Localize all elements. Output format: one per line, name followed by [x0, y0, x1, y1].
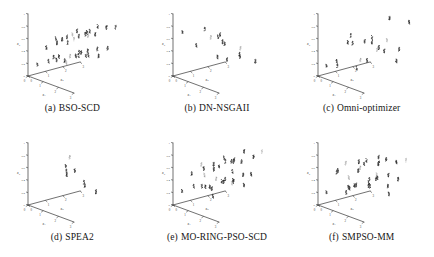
subplot-caption-d: (d)SPEA2	[51, 232, 94, 242]
svg-text:0.2: 0.2	[311, 190, 315, 194]
subplot-title-d: SPEA2	[65, 232, 94, 242]
svg-text:0: 0	[175, 207, 177, 211]
svg-text:1: 1	[39, 84, 41, 88]
svg-text:2: 2	[210, 69, 212, 73]
svg-text:3: 3	[359, 96, 361, 100]
svg-text:0.8: 0.8	[22, 25, 26, 29]
subplot-title-b: DN-NSGAII	[199, 103, 249, 113]
svg-text:0.2: 0.2	[22, 62, 26, 66]
svg-text:2: 2	[344, 90, 346, 94]
svg-text:0: 0	[313, 79, 315, 83]
svg-text:0.6: 0.6	[22, 165, 26, 169]
svg-text:2: 2	[344, 218, 346, 222]
svg-text:0.8: 0.8	[166, 25, 170, 29]
subplot-title-a: BSO-SCD	[59, 103, 100, 113]
svg-text:1: 1	[24, 141, 26, 145]
svg-text:0: 0	[313, 74, 315, 78]
figure-grid: 0123012300.20.40.60.81x1x2x3 (a)BSO-SCD …	[0, 0, 434, 257]
svg-text:1: 1	[329, 84, 331, 88]
subplot-caption-e: (e)MO-RING-PSO-SCD	[167, 232, 267, 242]
subplot-label-a: (a)	[45, 103, 56, 113]
plot-area-b: 0123012300.20.40.60.81x1x2x3	[147, 2, 287, 102]
svg-text:3: 3	[359, 224, 361, 228]
svg-text:0.6: 0.6	[166, 165, 170, 169]
svg-text:0: 0	[169, 74, 171, 78]
svg-text:0.4: 0.4	[166, 49, 170, 53]
subplot-caption-f: (f)SMPSO-MM	[329, 232, 394, 242]
svg-text:1: 1	[184, 84, 186, 88]
svg-text:x1: x1	[331, 93, 335, 98]
subplot-caption-b: (b)DN-NSGAII	[185, 103, 250, 113]
svg-text:2: 2	[355, 198, 357, 202]
svg-text:1: 1	[39, 213, 41, 217]
svg-text:1: 1	[313, 12, 315, 16]
plot-area-d: 0123012300.20.40.60.81x1x2x3	[2, 131, 142, 231]
subplot-title-e: MO-RING-PSO-SCD	[181, 232, 267, 242]
svg-text:x3: x3	[16, 42, 21, 47]
svg-text:0: 0	[24, 203, 26, 207]
svg-text:0.4: 0.4	[22, 178, 26, 182]
scatter3d-b: 0123012300.20.40.60.81x1x2x3	[147, 2, 287, 102]
svg-text:1: 1	[24, 12, 26, 16]
svg-text:0.4: 0.4	[311, 49, 315, 53]
svg-text:1: 1	[313, 141, 315, 145]
svg-text:1: 1	[193, 203, 195, 207]
svg-text:1: 1	[184, 213, 186, 217]
svg-text:0: 0	[175, 79, 177, 83]
svg-text:0.8: 0.8	[22, 153, 26, 157]
subplot-panel-d: 0123012300.20.40.60.81x1x2x3 (d)SPEA2	[0, 129, 145, 257]
svg-text:2: 2	[65, 69, 67, 73]
svg-text:x2: x2	[60, 206, 65, 211]
svg-text:0.6: 0.6	[311, 37, 315, 41]
svg-text:3: 3	[227, 65, 229, 69]
subplot-label-f: (f)	[329, 232, 339, 242]
svg-text:1: 1	[48, 74, 50, 78]
svg-text:3: 3	[215, 96, 217, 100]
svg-text:x2: x2	[349, 78, 354, 83]
svg-text:0.4: 0.4	[311, 178, 315, 182]
svg-text:2: 2	[55, 90, 57, 94]
svg-text:0.6: 0.6	[22, 37, 26, 41]
svg-text:0.8: 0.8	[311, 25, 315, 29]
svg-text:x3: x3	[306, 171, 311, 176]
svg-text:0: 0	[31, 207, 33, 211]
svg-text:x2: x2	[205, 78, 210, 83]
svg-text:2: 2	[55, 218, 57, 222]
svg-text:x3: x3	[306, 42, 311, 47]
svg-text:3: 3	[227, 193, 229, 197]
svg-text:1: 1	[193, 74, 195, 78]
svg-text:x1: x1	[42, 221, 46, 226]
svg-text:3: 3	[70, 96, 72, 100]
subplot-label-b: (b)	[185, 103, 197, 113]
svg-text:3: 3	[215, 224, 217, 228]
svg-text:0.4: 0.4	[22, 49, 26, 53]
svg-text:0: 0	[313, 207, 315, 211]
svg-text:0: 0	[313, 203, 315, 207]
svg-text:x1: x1	[331, 221, 335, 226]
svg-text:2: 2	[199, 90, 201, 94]
svg-text:1: 1	[337, 74, 339, 78]
svg-text:3: 3	[372, 193, 374, 197]
svg-text:0.8: 0.8	[311, 153, 315, 157]
svg-text:0.4: 0.4	[166, 178, 170, 182]
subplot-label-d: (d)	[51, 232, 63, 242]
svg-text:3: 3	[83, 193, 85, 197]
plot-area-c: 0123012300.20.40.60.81x1x2x3	[292, 2, 432, 102]
svg-text:1: 1	[169, 12, 171, 16]
svg-text:0.2: 0.2	[311, 62, 315, 66]
svg-text:1: 1	[337, 203, 339, 207]
subplot-panel-c: 0123012300.20.40.60.81x1x2x3 (c)Omni-opt…	[289, 0, 434, 129]
svg-text:0.6: 0.6	[166, 37, 170, 41]
scatter3d-f: 0123012300.20.40.60.81x1x2x3	[292, 131, 432, 231]
svg-text:0: 0	[169, 203, 171, 207]
svg-text:0: 0	[31, 79, 33, 83]
svg-text:0: 0	[320, 79, 322, 83]
svg-text:x1: x1	[42, 93, 46, 98]
svg-text:0: 0	[169, 207, 171, 211]
svg-text:0: 0	[169, 79, 171, 83]
plot-area-a: 0123012300.20.40.60.81x1x2x3	[2, 2, 142, 102]
svg-text:x2: x2	[205, 206, 210, 211]
subplot-panel-a: 0123012300.20.40.60.81x1x2x3 (a)BSO-SCD	[0, 0, 145, 129]
svg-text:x3: x3	[16, 171, 21, 176]
svg-text:x2: x2	[349, 206, 354, 211]
